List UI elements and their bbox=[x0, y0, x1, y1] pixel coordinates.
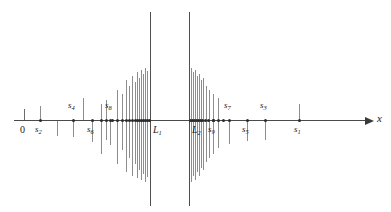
tick-stem-down bbox=[101, 120, 102, 154]
tick-stem-up bbox=[145, 68, 146, 120]
point-dot bbox=[212, 119, 215, 122]
tick-stem-down bbox=[57, 120, 58, 136]
point-dot bbox=[222, 119, 225, 122]
tick-stem-down bbox=[126, 120, 127, 172]
point-dot bbox=[72, 119, 75, 122]
tick-stem-up bbox=[191, 68, 192, 120]
tick-stem-up bbox=[197, 76, 198, 120]
tick-stem-up bbox=[101, 104, 102, 120]
tick-stem-down bbox=[106, 120, 107, 140]
tick-stem-down bbox=[139, 120, 140, 170]
point-dot bbox=[105, 119, 108, 122]
tick-stem-up bbox=[40, 106, 41, 120]
point-dot bbox=[207, 119, 210, 122]
label-s6: s6 bbox=[87, 124, 94, 134]
label-s5: s5 bbox=[242, 124, 249, 134]
tick-stem-up bbox=[218, 98, 219, 120]
tick-stem-down bbox=[122, 120, 123, 150]
label-L2: L2 bbox=[192, 124, 201, 135]
point-dot bbox=[148, 119, 151, 122]
axis-arrow-right bbox=[365, 117, 374, 125]
point-dot bbox=[246, 119, 249, 122]
tick-stem-up bbox=[203, 78, 204, 120]
tick-stem-down bbox=[206, 120, 207, 162]
label-s3: s3 bbox=[260, 100, 267, 110]
tick-stem-up bbox=[139, 78, 140, 120]
tick-stem-up bbox=[147, 71, 148, 120]
tick-stem-up bbox=[141, 70, 142, 120]
tick-stem-down bbox=[110, 120, 111, 145]
tick-stem-up bbox=[201, 80, 202, 120]
tick-stem-up bbox=[126, 80, 127, 120]
tick-stem-down bbox=[143, 120, 144, 174]
label-s7: s7 bbox=[224, 100, 231, 110]
tick-stem-down bbox=[218, 120, 219, 148]
limit-line-L2 bbox=[189, 12, 190, 206]
origin-label: 0 bbox=[20, 124, 25, 135]
label-L1: L1 bbox=[153, 124, 162, 135]
tick-stem-up bbox=[132, 76, 133, 120]
label-s9: s9 bbox=[208, 124, 215, 134]
tick-stem-up bbox=[195, 70, 196, 120]
tick-stem-down bbox=[132, 120, 133, 176]
tick-stem-down bbox=[129, 120, 130, 158]
label-s4: s4 bbox=[68, 100, 75, 110]
point-dot bbox=[121, 119, 124, 122]
point-dot bbox=[100, 119, 103, 122]
tick-stem-up bbox=[137, 72, 138, 120]
tick-stem-up bbox=[193, 72, 194, 120]
label-s1: s1 bbox=[294, 124, 301, 134]
point-dot bbox=[217, 119, 220, 122]
tick-stem-down bbox=[137, 120, 138, 178]
label-s8: s8 bbox=[105, 100, 112, 110]
point-dot bbox=[91, 119, 94, 122]
limit-line-L1 bbox=[150, 12, 151, 206]
tick-stem-up bbox=[199, 74, 200, 120]
tick-stem-up bbox=[122, 94, 123, 120]
tick-stem-up bbox=[83, 98, 84, 120]
tick-stem-down bbox=[141, 120, 142, 180]
point-dot bbox=[298, 119, 301, 122]
point-dot bbox=[109, 119, 112, 122]
number-line-figure: x0s2s4s6s8s9s7s5s3s1L1L2 bbox=[0, 0, 391, 212]
tick-stem-up bbox=[206, 86, 207, 120]
tick-stem-up bbox=[117, 90, 118, 120]
label-s2: s2 bbox=[35, 124, 42, 134]
tick-stem-down bbox=[229, 120, 230, 144]
tick-stem-down bbox=[73, 120, 74, 137]
tick-stem-up bbox=[299, 104, 300, 120]
tick-stem-down bbox=[135, 120, 136, 164]
tick-stem-down bbox=[117, 120, 118, 164]
point-dot bbox=[116, 119, 119, 122]
tick-stem-down bbox=[147, 120, 148, 177]
tick-stem-up bbox=[129, 86, 130, 120]
point-dot bbox=[264, 119, 267, 122]
tick-stem-down bbox=[203, 120, 204, 170]
tick-stem-up bbox=[135, 82, 136, 120]
tick-stem-up bbox=[143, 74, 144, 120]
x-axis-label: x bbox=[377, 112, 382, 124]
tick-stem-down bbox=[145, 120, 146, 182]
tick-stem-down bbox=[265, 120, 266, 140]
point-dot bbox=[228, 119, 231, 122]
point-dot bbox=[39, 119, 42, 122]
tick-stem-up bbox=[213, 94, 214, 120]
origin-tick bbox=[24, 109, 25, 120]
tick-stem-down bbox=[201, 120, 202, 168]
tick-stem-up bbox=[209, 90, 210, 120]
